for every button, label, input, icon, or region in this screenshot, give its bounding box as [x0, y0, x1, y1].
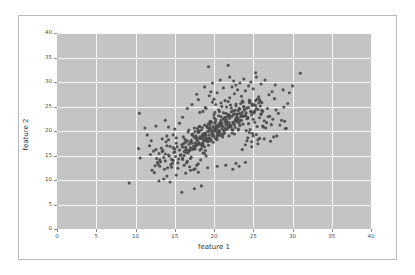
y-tick-mark [54, 180, 57, 181]
x-tick-mark [136, 229, 137, 232]
plot-area [57, 33, 371, 229]
x-tick-label: 10 [132, 234, 139, 240]
y-axis-label: feature 2 [23, 95, 30, 175]
x-tick-mark [253, 229, 254, 232]
y-tick-mark [54, 205, 57, 206]
y-tick-label: 5 [35, 202, 52, 208]
y-tick-label: 0 [35, 226, 52, 232]
x-tick-label: 20 [211, 234, 218, 240]
x-tick-label: 5 [95, 234, 99, 240]
axes-region: 0510152025303540 0510152025303540 featur… [19, 16, 398, 261]
x-tick-label: 35 [328, 234, 335, 240]
x-tick-mark [293, 229, 294, 232]
x-tick-mark [175, 229, 176, 232]
x-tick-label: 25 [250, 234, 257, 240]
y-tick-label: 40 [35, 30, 52, 36]
x-tick-mark [96, 229, 97, 232]
x-tick-mark [214, 229, 215, 232]
scatter-points-layer [57, 33, 371, 229]
x-tick-label: 40 [368, 234, 375, 240]
y-tick-mark [54, 131, 57, 132]
y-tick-mark [54, 156, 57, 157]
x-tick-mark [57, 229, 58, 232]
x-tick-label: 0 [55, 234, 59, 240]
y-tick-mark [54, 229, 57, 230]
x-tick-mark [332, 229, 333, 232]
y-tick-label: 15 [35, 153, 52, 159]
y-tick-mark [54, 33, 57, 34]
y-tick-mark [54, 58, 57, 59]
x-tick-label: 30 [289, 234, 296, 240]
y-tick-label: 35 [35, 55, 52, 61]
x-tick-mark [371, 229, 372, 232]
y-tick-mark [54, 82, 57, 83]
figure-frame: 0510152025303540 0510152025303540 featur… [18, 15, 397, 260]
y-tick-label: 30 [35, 79, 52, 85]
y-tick-label: 20 [35, 128, 52, 134]
x-axis-label: feature 1 [57, 244, 371, 251]
y-tick-label: 10 [35, 177, 52, 183]
y-tick-label: 25 [35, 104, 52, 110]
x-tick-label: 15 [171, 234, 178, 240]
y-tick-mark [54, 107, 57, 108]
